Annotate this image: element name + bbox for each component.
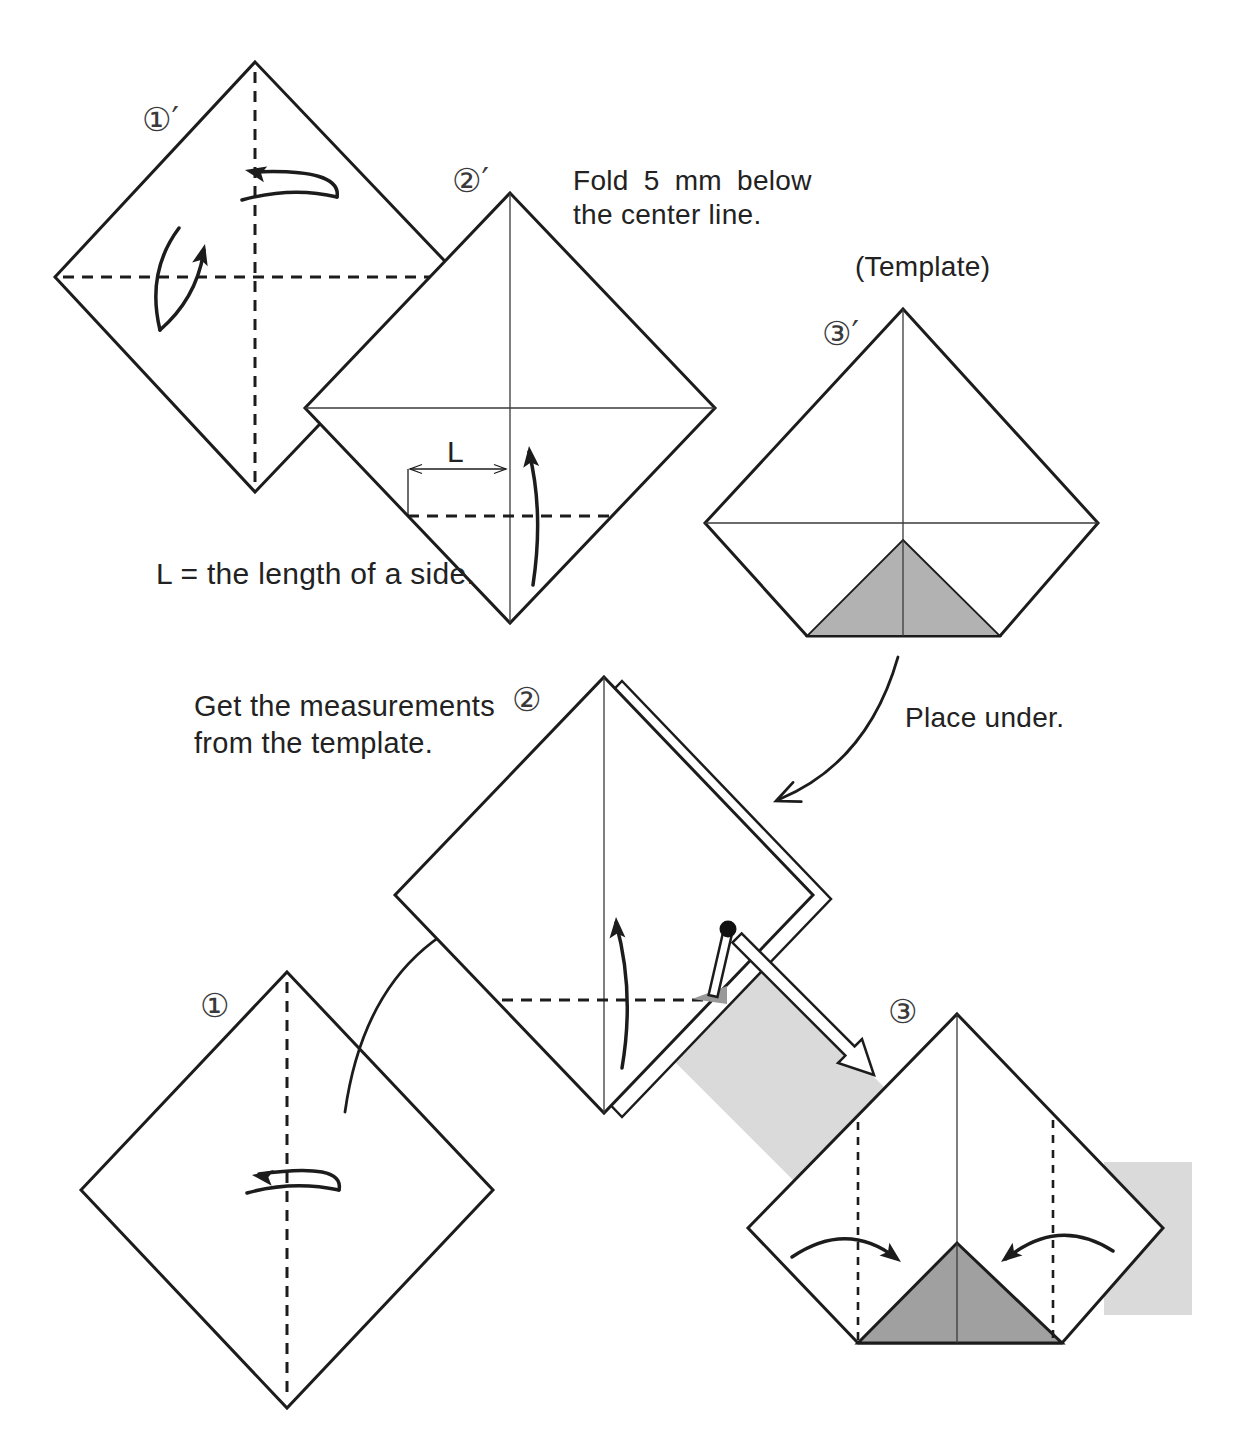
- step-3-label: ③: [888, 992, 918, 1031]
- place-under-curve: [780, 657, 898, 799]
- pin-head-icon: [720, 921, 737, 938]
- step-1-prime-label: ①′: [142, 100, 179, 139]
- length-l-label: L: [447, 435, 464, 468]
- place-under-label: Place under.: [905, 702, 1064, 733]
- template-caption: (Template): [855, 251, 990, 282]
- step-2-label: ②: [512, 680, 542, 719]
- step-3-prime-template: [705, 309, 1098, 636]
- origami-instruction-page: L: [0, 0, 1242, 1450]
- measure-note-line1: Get the measurements: [194, 690, 495, 722]
- step-3-prime-label: ③′: [822, 314, 859, 353]
- step-2-prime-label: ②′: [452, 161, 489, 200]
- length-note: L = the length of a side.: [156, 557, 475, 590]
- step-1: [81, 972, 493, 1408]
- origami-diagram: L: [0, 0, 1242, 1450]
- paper-square: [81, 972, 493, 1408]
- fold-note-line2: the center line.: [573, 199, 761, 230]
- measure-note-line2: from the template.: [194, 727, 433, 759]
- step-1-label: ①: [200, 986, 230, 1025]
- place-under-arrow: [772, 657, 898, 811]
- fold-note-line1: Fold 5 mm below: [573, 165, 812, 196]
